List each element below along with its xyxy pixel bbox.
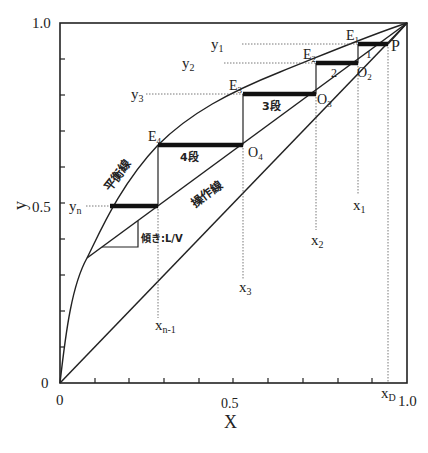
y1-label: y1	[211, 36, 224, 54]
o4-label: O4	[248, 145, 263, 162]
xD-label: xD	[381, 385, 396, 403]
yn-label: yn	[69, 198, 82, 216]
x2-label: x2	[311, 232, 324, 250]
y-tick-05: 0.5	[32, 199, 51, 215]
stage-3-label: 3段	[262, 99, 281, 113]
e4-label: E4	[148, 129, 162, 146]
y-tick-1: 1.0	[32, 15, 51, 31]
x-tick-0: 0	[56, 392, 64, 408]
slope-label: 傾き:L/V	[140, 232, 183, 244]
y-guide-lines	[86, 44, 358, 206]
operating-line	[87, 23, 407, 258]
o2-label: O2	[357, 65, 372, 82]
x-axis-title: X	[224, 412, 237, 432]
e1-label: E1	[346, 28, 359, 45]
e2-label: E2	[303, 47, 316, 64]
e3-label: E3	[229, 78, 243, 95]
y-tick-0: 0	[41, 375, 49, 391]
x3-label: x3	[239, 279, 252, 297]
stage-4-label: 4段	[180, 150, 199, 164]
operating-line-label: 操作線	[187, 177, 225, 210]
stage-2-label: 2	[331, 66, 337, 80]
p-label: P	[391, 37, 400, 54]
xn-1-label: xn-1	[155, 317, 176, 335]
y3-label: y3	[131, 86, 144, 104]
stage-1-label: 1	[366, 48, 372, 60]
equilibrium-curve-label: 平衡線	[100, 156, 134, 194]
x-tick-1: 1.0	[398, 393, 417, 409]
x1-label: x1	[353, 197, 366, 215]
y-axis-title: y	[10, 201, 30, 210]
o3-label: O3	[317, 92, 332, 109]
x-tick-05: 0.5	[221, 396, 239, 411]
y2-label: y2	[182, 55, 195, 73]
mccabe-thiele-diagram: 1.0 0.5 0 0 0.5 1.0 X y y1 y2 y3 yn x1 x…	[0, 0, 428, 453]
